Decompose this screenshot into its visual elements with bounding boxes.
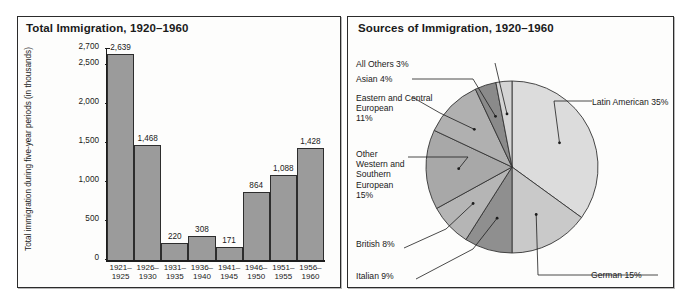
x-tick-label: 1931– 1935	[164, 263, 186, 282]
pie-leader-dot-latin-american	[558, 141, 561, 144]
x-tick-label: 1921– 1925	[109, 263, 131, 282]
pie-callout-latin-american: Latin American 35%	[592, 97, 668, 107]
pie-callout-other-western-southern-european: Other Western and Southern European 15%	[356, 149, 405, 200]
y-tick-label: 2,500	[79, 58, 100, 67]
x-tick-label: 1951– 1955	[272, 263, 294, 282]
bar-chart-plot: 05001,0001,5002,0002,5002,700 2,6391,468…	[106, 49, 324, 261]
pie-leader-dot-eastern-central-european	[473, 128, 476, 131]
x-tick: 1946– 1950	[243, 49, 270, 261]
x-axis-ticks: 1921– 19251926– 19301931– 19351936– 1940…	[107, 49, 324, 261]
x-tick: 1956– 1960	[297, 49, 324, 261]
y-tick-label: 2,000	[79, 97, 100, 106]
x-tick-label: 1936– 1940	[191, 263, 213, 282]
pie-callout-italian: Italian 9%	[356, 271, 394, 281]
y-tick-label: 1,000	[79, 175, 100, 184]
y-tick-label: 500	[85, 214, 99, 223]
x-tick-label: 1941– 1945	[218, 263, 240, 282]
figure-container: Total Immigration, 1920–1960 Total immig…	[0, 0, 683, 303]
pie-leader-dot-all-others	[506, 113, 509, 116]
x-tick-label: 1946– 1950	[245, 263, 267, 282]
pie-callout-german: German 15%	[591, 270, 642, 280]
pie-leader-dot-german	[535, 213, 538, 216]
y-tick-label: 2,700	[79, 42, 100, 51]
x-tick: 1941– 1945	[216, 49, 243, 261]
bar-chart-panel: Total Immigration, 1920–1960 Total immig…	[17, 16, 341, 288]
pie-callout-british: British 8%	[356, 239, 395, 249]
x-tick: 1921– 1925	[107, 49, 134, 261]
bar-chart-y-axis-title: Total immigration during five-year perio…	[23, 41, 35, 257]
x-tick: 1936– 1940	[188, 49, 215, 261]
pie-leader-dot-italian	[496, 217, 499, 220]
pie-callout-all-others: All Others 3%	[356, 59, 409, 69]
pie-chart-area: All Others 3% Asian 4% Eastern and Centr…	[348, 17, 673, 287]
x-tick: 1926– 1930	[134, 49, 161, 261]
x-tick: 1951– 1955	[270, 49, 297, 261]
pie-chart-panel: Sources of Immigration, 1920–1960 All Ot…	[347, 16, 674, 288]
pie-leader-dot-british	[472, 202, 475, 205]
bar-chart-area: Total immigration during five-year perio…	[18, 17, 340, 287]
pie-callout-asian: Asian 4%	[356, 74, 392, 84]
pie-leader-dot-asian	[494, 115, 497, 118]
x-tick: 1931– 1935	[161, 49, 188, 261]
x-tick-label: 1926– 1930	[137, 263, 159, 282]
x-tick-label: 1956– 1960	[299, 263, 321, 282]
y-tick-label: 1,500	[79, 136, 100, 145]
pie-callout-eastern-central-european: Eastern and Central European 11%	[356, 93, 432, 124]
y-tick-label: 0	[94, 253, 99, 262]
pie-leader-dot-other-western-southern-european	[457, 167, 460, 170]
